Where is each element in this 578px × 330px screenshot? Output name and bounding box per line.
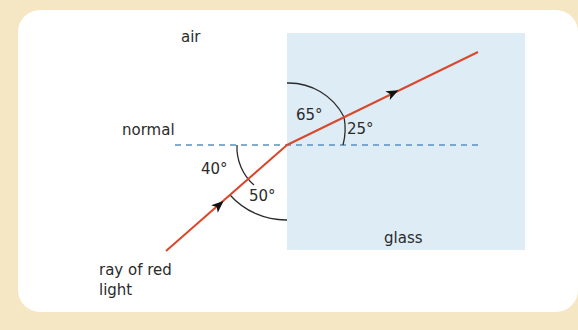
glass-block (287, 33, 525, 250)
angle-label-40: 40° (201, 160, 228, 178)
angle-label-25: 25° (347, 120, 374, 138)
ray-label-line1: ray of red (99, 261, 172, 279)
angle-label-50: 50° (249, 187, 276, 205)
normal-label: normal (122, 121, 175, 139)
ray-label-line2: light (99, 281, 132, 299)
angle-arc-40 (237, 145, 254, 185)
air-label: air (181, 28, 201, 46)
glass-label: glass (384, 229, 423, 247)
angle-label-65: 65° (296, 106, 323, 124)
